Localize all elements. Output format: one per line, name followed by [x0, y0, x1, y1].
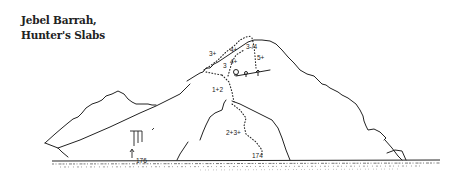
route-line-4: [222, 75, 234, 102]
crack-marking: [130, 128, 154, 146]
grade-label: 2+3+: [226, 129, 241, 136]
grade-label: 3: [223, 62, 227, 69]
base-boulder-2: [387, 150, 406, 160]
mid-slab-line: [200, 100, 226, 140]
left-ridge-line: [45, 91, 156, 143]
route-number: 176: [136, 157, 147, 164]
grade-label: 3-/4: [246, 43, 258, 50]
grade-label: 4+: [230, 58, 238, 65]
ledge-line: [236, 70, 270, 76]
route-number: 174: [252, 152, 263, 159]
right-slab-line: [177, 142, 188, 160]
belay-icon: [234, 70, 239, 75]
grade-label: 3+: [209, 50, 217, 57]
grade-label: 5+: [257, 54, 265, 61]
ground: [52, 160, 440, 170]
route-start-arrow: [130, 149, 134, 158]
base-boulder: [385, 140, 402, 160]
grade-label: 4+: [230, 46, 238, 53]
route-line-6: [206, 72, 222, 75]
crag-sketch: 3+ 4+ 3-/4 4+ 5+ 3 1+2 2+3+ 174 176: [0, 0, 466, 185]
grade-label: 1+2: [212, 86, 223, 93]
tree-icon: [256, 70, 260, 76]
